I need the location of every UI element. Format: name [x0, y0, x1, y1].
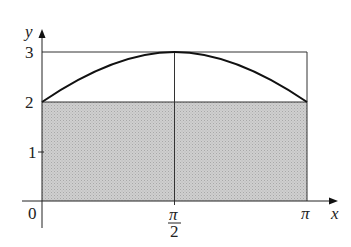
x-axis-label: x	[330, 204, 339, 223]
origin-label: 0	[28, 204, 37, 223]
y-tick-label-2: 2	[25, 93, 34, 112]
x-tick-label-pi: π	[301, 204, 310, 223]
y-tick-label-3: 3	[25, 43, 34, 62]
graph: y 3 2 1 0 π 2 π x	[0, 0, 351, 247]
y-axis-arrow-icon	[39, 29, 46, 38]
y-axis-label: y	[23, 22, 33, 41]
x-tick-label-pi-over-2-den: 2	[170, 222, 179, 241]
y-tick-label-1: 1	[28, 143, 37, 162]
